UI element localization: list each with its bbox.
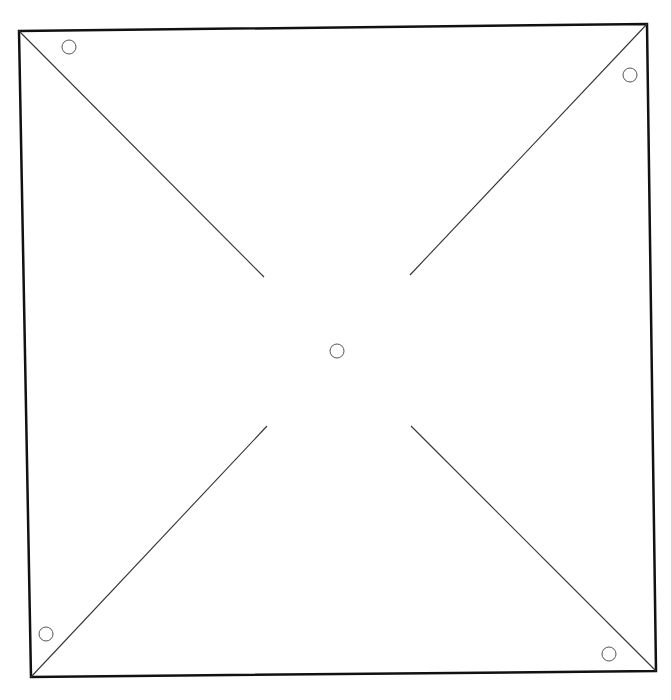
pinwheel-diagram [0, 0, 671, 700]
